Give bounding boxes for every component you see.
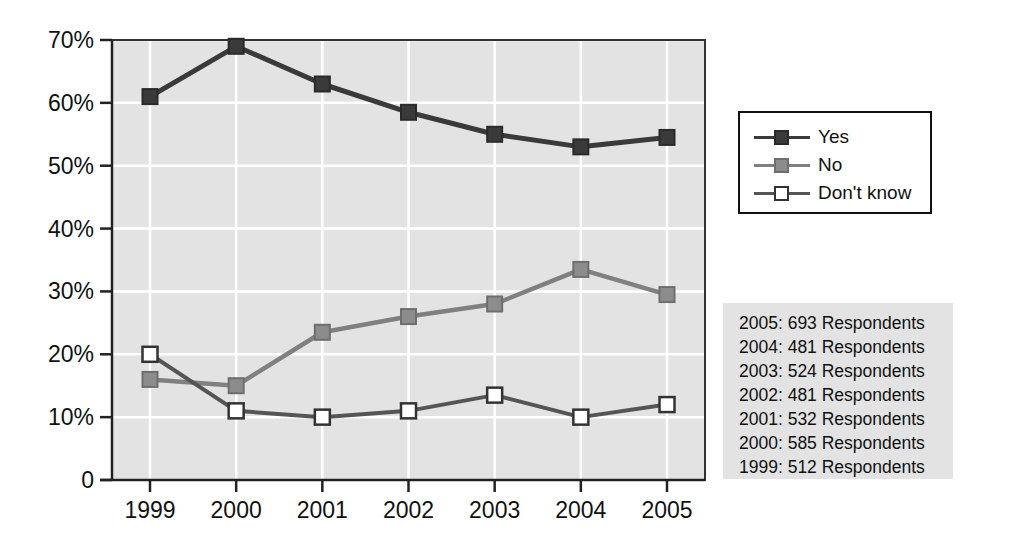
legend-label-yes: Yes xyxy=(818,127,849,147)
legend-item-no: No xyxy=(740,151,930,179)
y-axis-tick-label: 0 xyxy=(81,467,94,493)
x-axis-tick-label: 2003 xyxy=(469,497,520,523)
x-axis-tick-label: 2001 xyxy=(297,497,348,523)
chart-canvas: 010%20%30%40%50%60%70%199920002001200220… xyxy=(0,0,730,534)
data-point-don-t-know xyxy=(401,403,416,418)
data-point-no xyxy=(143,372,158,387)
data-point-don-t-know xyxy=(660,397,675,412)
legend-item-yes: Yes xyxy=(740,123,930,151)
respondents-line-2003: 2003: 524 Respondents xyxy=(739,359,953,383)
data-point-yes xyxy=(573,139,588,154)
respondents-line-2005: 2005: 693 Respondents xyxy=(739,311,953,335)
data-point-no xyxy=(573,262,588,277)
data-point-yes xyxy=(487,127,502,142)
data-point-don-t-know xyxy=(315,410,330,425)
y-axis-tick-label: 50% xyxy=(48,153,94,179)
legend-item-dont-know: Don't know xyxy=(740,179,930,207)
data-point-no xyxy=(315,325,330,340)
x-axis-tick-label: 2004 xyxy=(555,497,606,523)
legend-marker-dont-know xyxy=(754,183,810,203)
chart-legend: Yes No Don't know xyxy=(738,111,932,214)
y-axis-tick-label: 30% xyxy=(48,278,94,304)
data-point-don-t-know xyxy=(229,403,244,418)
legend-label-no: No xyxy=(818,155,842,175)
respondents-line-2000: 2000: 585 Respondents xyxy=(739,431,953,455)
x-axis-tick-label: 2005 xyxy=(641,497,692,523)
data-point-yes xyxy=(315,77,330,92)
x-axis-tick-label: 2000 xyxy=(211,497,262,523)
y-axis-tick-label: 70% xyxy=(48,27,94,53)
x-axis-tick-label: 1999 xyxy=(124,497,175,523)
data-point-yes xyxy=(229,39,244,54)
y-axis-tick-label: 60% xyxy=(48,90,94,116)
x-axis-tick-label: 2002 xyxy=(383,497,434,523)
y-axis-tick-label: 20% xyxy=(48,341,94,367)
data-point-yes xyxy=(660,130,675,145)
data-point-no xyxy=(229,378,244,393)
data-point-no xyxy=(660,287,675,302)
chart-page: 010%20%30%40%50%60%70%199920002001200220… xyxy=(0,0,1010,534)
y-axis-tick-label: 40% xyxy=(48,216,94,242)
data-point-yes xyxy=(401,105,416,120)
data-point-no xyxy=(487,297,502,312)
respondents-line-2002: 2002: 481 Respondents xyxy=(739,383,953,407)
respondents-line-2004: 2004: 481 Respondents xyxy=(739,335,953,359)
y-axis-tick-label: 10% xyxy=(48,404,94,430)
data-point-don-t-know xyxy=(573,410,588,425)
legend-marker-yes xyxy=(754,127,810,147)
data-point-don-t-know xyxy=(487,388,502,403)
legend-marker-no xyxy=(754,155,810,175)
data-point-yes xyxy=(143,89,158,104)
data-point-don-t-know xyxy=(143,347,158,362)
respondents-note: 2005: 693 Respondents 2004: 481 Responde… xyxy=(723,303,953,479)
respondents-line-1999: 1999: 512 Respondents xyxy=(739,455,953,479)
legend-label-dont-know: Don't know xyxy=(818,183,911,203)
respondents-line-2001: 2001: 532 Respondents xyxy=(739,407,953,431)
line-chart: 010%20%30%40%50%60%70%199920002001200220… xyxy=(0,0,730,534)
data-point-no xyxy=(401,309,416,324)
